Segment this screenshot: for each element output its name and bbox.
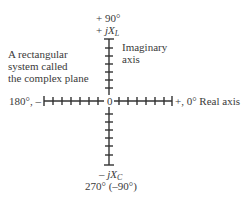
top-x: X (108, 24, 115, 36)
imaginary-axis-label-line-1: Imaginary (122, 41, 167, 53)
description-line-1: A rectangular (8, 48, 89, 60)
bottom-angle-label: 270° (–90°) (85, 180, 137, 192)
origin-label: 0 (106, 95, 114, 107)
top-sign: + (96, 24, 102, 36)
bottom-sign: – (99, 168, 105, 180)
description-line-2: system called (8, 60, 89, 72)
imaginary-axis-label-line-2: axis (122, 53, 140, 65)
right-axis-label: +, 0° Real axis (175, 95, 240, 107)
top-sub-l: L (115, 29, 119, 38)
complex-plane-description: A rectangular system called the complex … (8, 48, 89, 84)
top-angle-label: + 90° (96, 12, 120, 24)
left-axis-label: 180°, – (9, 95, 41, 107)
description-line-3: the complex plane (8, 72, 89, 84)
top-jxl-label: + jXL (96, 24, 119, 40)
